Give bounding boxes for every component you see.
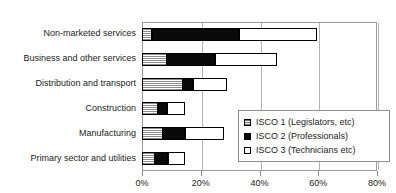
axis-tick-60 bbox=[318, 171, 319, 176]
bar-segment-isco1 bbox=[142, 28, 152, 41]
bar-segment-isco1 bbox=[142, 78, 183, 91]
axis-tick-label: 20% bbox=[181, 178, 221, 189]
bar-row bbox=[142, 53, 377, 66]
axis-tick-label: 0% bbox=[122, 178, 162, 189]
category-label: Business and other services bbox=[6, 53, 142, 64]
bar-segment-isco2 bbox=[155, 152, 168, 165]
legend-swatch-icon bbox=[244, 119, 251, 126]
bar-segment-isco1 bbox=[142, 53, 167, 66]
clipped-top-caption bbox=[0, 0, 396, 9]
bar-row bbox=[142, 28, 377, 41]
bar-segment-isco1 bbox=[142, 127, 163, 140]
bar-segment-isco3 bbox=[215, 53, 277, 66]
category-label: Non-marketed services bbox=[6, 28, 142, 39]
bar-segment-isco1 bbox=[142, 102, 158, 115]
axis-tick-20 bbox=[201, 171, 202, 176]
bar-segment-isco3 bbox=[168, 152, 184, 165]
stacked-bar-chart: Non-marketed servicesBusiness and other … bbox=[0, 9, 396, 193]
bar-segment-isco3 bbox=[185, 127, 225, 140]
bar-segment-isco2 bbox=[152, 28, 239, 41]
axis-tick-80 bbox=[377, 171, 378, 176]
axis-tick-label: 60% bbox=[298, 178, 338, 189]
axis-tick-0 bbox=[142, 171, 143, 176]
category-label: Distribution and transport bbox=[6, 78, 142, 89]
category-label: Primary sector and utilities bbox=[6, 153, 142, 164]
legend-swatch-icon bbox=[244, 147, 251, 154]
category-label: Construction bbox=[6, 103, 142, 114]
bar-segment-isco3 bbox=[167, 102, 185, 115]
bar-segment-isco3 bbox=[239, 28, 317, 41]
axis-tick-40 bbox=[260, 171, 261, 176]
legend-label: ISCO 3 (Technicians etc) bbox=[256, 145, 356, 155]
legend-item[interactable]: ISCO 2 (Professionals) bbox=[244, 129, 384, 143]
category-label: Manufacturing bbox=[6, 128, 142, 139]
bar-segment-isco2 bbox=[163, 127, 185, 140]
axis-tick-label: 40% bbox=[240, 178, 280, 189]
bar-segment-isco2 bbox=[158, 102, 167, 115]
category-axis-labels: Non-marketed servicesBusiness and other … bbox=[0, 22, 142, 171]
legend-item[interactable]: ISCO 3 (Technicians etc) bbox=[244, 143, 384, 157]
legend-label: ISCO 2 (Professionals) bbox=[256, 131, 348, 141]
legend-item[interactable]: ISCO 1 (Legislators, etc) bbox=[244, 115, 384, 129]
bar-row bbox=[142, 78, 377, 91]
legend-label: ISCO 1 (Legislators, etc) bbox=[256, 117, 355, 127]
bar-segment-isco2 bbox=[183, 78, 193, 91]
bar-segment-isco1 bbox=[142, 152, 155, 165]
bar-segment-isco3 bbox=[193, 78, 227, 91]
legend-swatch-icon bbox=[244, 133, 251, 140]
bar-segment-isco2 bbox=[167, 53, 215, 66]
axis-tick-label: 80% bbox=[357, 178, 396, 189]
chart-legend: ISCO 1 (Legislators, etc)ISCO 2 (Profess… bbox=[238, 110, 390, 162]
